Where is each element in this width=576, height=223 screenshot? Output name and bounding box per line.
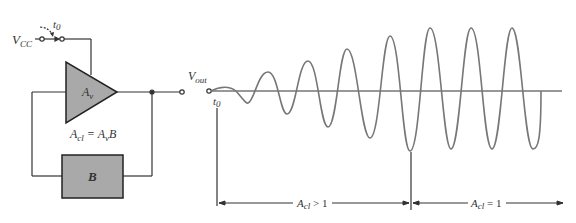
dimension-arrows — [219, 201, 563, 205]
region1-label: Acl > 1 — [296, 197, 327, 211]
vout-label: Vout — [188, 69, 207, 85]
gain-equation: Acl = AvB — [69, 127, 117, 143]
oscillation-waveform — [211, 28, 541, 151]
power-switch — [35, 27, 91, 75]
region2-label: Acl = 1 — [470, 197, 501, 211]
feedback-label: B — [87, 169, 97, 184]
switch-time-label: t0 — [53, 18, 61, 32]
vcc-label: VCC — [12, 32, 33, 49]
t0-label: t0 — [213, 95, 221, 109]
waveform-axis — [207, 89, 562, 210]
oscillator-diagram: VCC t0 Av Acl = AvB B Vout t0 — [0, 0, 576, 223]
